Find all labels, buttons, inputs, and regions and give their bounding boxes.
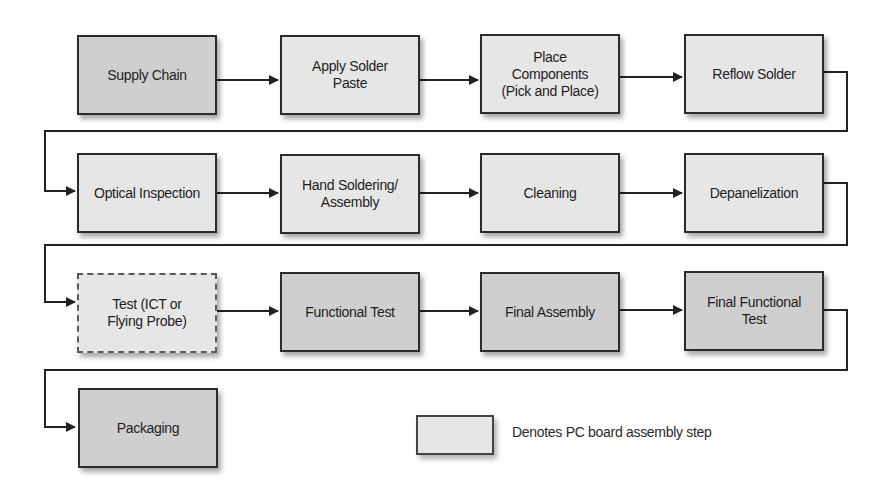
step-optical-inspection: Optical Inspection	[77, 153, 217, 233]
step-hand-soldering-assembly: Hand Soldering/ Assembly	[280, 154, 420, 234]
legend-label: Denotes PC board assembly step	[512, 424, 712, 440]
step-place-components: Place Components (Pick and Place)	[480, 34, 620, 114]
step-cleaning: Cleaning	[480, 153, 620, 233]
step-depanelization: Depanelization	[684, 153, 824, 233]
step-packaging: Packaging	[78, 388, 218, 468]
step-supply-chain: Supply Chain	[77, 35, 217, 115]
step-functional-test: Functional Test	[280, 272, 420, 352]
legend-swatch-pcb-step	[416, 415, 494, 455]
flowchart-canvas: Supply Chain Apply Solder Paste Place Co…	[0, 0, 889, 497]
step-test-ict-flying-probe: Test (ICT or Flying Probe)	[77, 273, 217, 353]
step-reflow-solder: Reflow Solder	[684, 34, 824, 114]
step-final-assembly: Final Assembly	[480, 272, 620, 352]
step-apply-solder-paste: Apply Solder Paste	[280, 35, 420, 115]
step-final-functional-test: Final Functional Test	[684, 271, 824, 351]
